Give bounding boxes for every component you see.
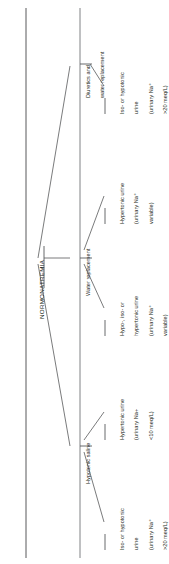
treatment-diuretics-line2: water replacement (99, 52, 105, 98)
urine-finding-3-line3: (urinary Na⁺ (148, 305, 154, 336)
treatment-water-replacement-label: Water replacement (85, 249, 91, 296)
treatment-hypotonic-saline: Hypotonic saline (78, 414, 92, 484)
urine-finding-5-line2: urine (133, 101, 139, 114)
urine-finding-4-line2: (urinary Na⁺ (133, 193, 139, 224)
urine-finding-3-line1: Hypo-, iso- or (119, 302, 125, 336)
urine-finding-2-line1: Hypertonic urine (119, 399, 125, 440)
hyponatremia-flow-diagram: Iso- or hypotonic urine (urinary Na⁺ >20… (0, 0, 161, 564)
urine-finding-4-line1: Hypertonic urine (119, 183, 125, 224)
urine-finding-5-line3: (urinary Na⁺ (148, 83, 154, 114)
urine-finding-4: Hypertonic urine (urinary Na⁺ variable) (112, 172, 155, 224)
outcome-normonatremia-label: NORMONATREMIA (38, 260, 45, 319)
urine-finding-5-line1: Iso- or hypotonic (119, 72, 125, 114)
treatment-hypotonic-saline-label: Hypotonic saline (85, 443, 91, 484)
urine-finding-2-line3: <10 meq/L) (148, 411, 154, 440)
urine-finding-1-line1: Iso- or hypotonic (119, 508, 125, 550)
treatment-diuretics-line1: Diuretics and (85, 65, 91, 98)
urine-finding-2-line2: (urinary Na+ (133, 409, 139, 440)
urine-finding-3: Hypo-, iso- or hypertonic urine (urinary… (112, 284, 161, 336)
treatment-diuretics-water-replacement: Diuretics and water replacement (78, 28, 107, 98)
urine-finding-2: Hypertonic urine (urinary Na+ <10 meq/L) (112, 388, 155, 440)
urine-finding-1: Iso- or hypotonic urine (urinary Na⁺ >20… (112, 498, 161, 550)
urine-finding-1-line2: urine (133, 537, 139, 550)
treatment-water-replacement: Water replacement (78, 226, 92, 296)
outcome-normonatremia: NORMONATREMIA (30, 239, 46, 319)
urine-finding-5: Iso- or hypotonic urine (urinary Na⁺ >20… (112, 62, 161, 114)
urine-finding-3-line2: hypertonic urine (133, 296, 139, 336)
urine-finding-4-line3: variable) (148, 202, 154, 224)
edge-t3-to-outcome (38, 66, 70, 258)
urine-finding-1-line3: (urinary Na⁺ (148, 519, 154, 550)
